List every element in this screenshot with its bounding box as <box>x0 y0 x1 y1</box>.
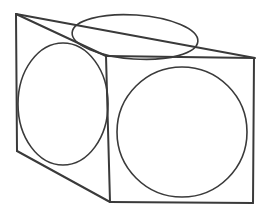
cube-line-drawing <box>0 0 272 214</box>
front-face-right-vertical-edge <box>253 58 254 203</box>
front-face-bottom-edge <box>110 202 253 203</box>
figure-canvas <box>0 0 272 214</box>
background-rect <box>0 0 272 214</box>
left-face-back-vertical-edge <box>16 14 17 151</box>
